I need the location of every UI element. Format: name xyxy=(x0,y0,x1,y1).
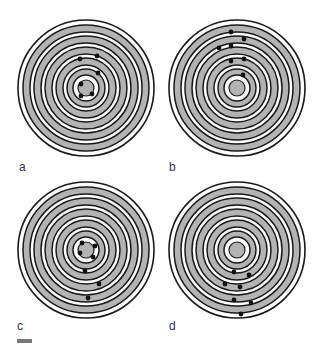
marker-dot xyxy=(242,57,247,62)
figure-canvas xyxy=(0,0,319,345)
marker-dot xyxy=(239,312,244,317)
marker-dot xyxy=(91,255,96,260)
panel-label-b: b xyxy=(169,161,176,173)
marker-dot xyxy=(229,59,234,64)
marker-dot xyxy=(229,30,234,35)
marker-dot xyxy=(78,57,83,62)
marker-dot xyxy=(238,285,243,290)
marker-dot xyxy=(232,270,237,275)
marker-dot xyxy=(223,282,228,287)
marker-dot xyxy=(242,37,247,42)
panel-a xyxy=(18,20,154,156)
marker-dot xyxy=(217,46,222,51)
marker-dot xyxy=(95,54,100,59)
marker-dot xyxy=(249,301,254,306)
scale-bar xyxy=(17,339,32,343)
marker-dot xyxy=(86,296,91,301)
panel-c xyxy=(18,182,154,318)
panel-label-d: d xyxy=(169,320,176,332)
marker-dot xyxy=(97,282,102,287)
panel-b xyxy=(169,20,305,156)
marker-dot xyxy=(247,273,252,278)
nucleus xyxy=(229,242,245,258)
marker-dot xyxy=(83,269,88,274)
marker-dot xyxy=(229,44,234,49)
marker-dot xyxy=(79,82,84,87)
panel-d xyxy=(169,182,305,318)
marker-dot xyxy=(80,241,85,246)
panel-label-a: a xyxy=(19,161,26,173)
marker-dot xyxy=(93,244,98,249)
nucleus xyxy=(229,80,245,96)
marker-dot xyxy=(241,73,246,78)
marker-dot xyxy=(96,71,101,76)
marker-dot xyxy=(90,92,95,97)
marker-dot xyxy=(78,251,83,256)
panel-label-c: c xyxy=(17,320,23,332)
marker-dot xyxy=(79,94,84,99)
concentric-rings-figure: a b c d xyxy=(0,0,319,345)
marker-dot xyxy=(232,298,237,303)
